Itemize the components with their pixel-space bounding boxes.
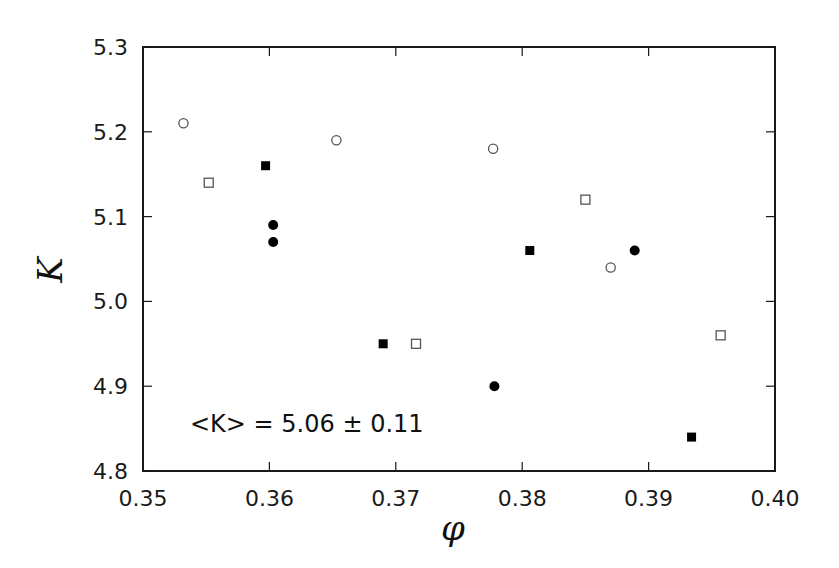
y-tick-label: 5.2 — [93, 120, 128, 145]
open-square-marker — [204, 178, 213, 187]
open-square-marker — [581, 195, 590, 204]
filled-square-marker — [261, 161, 270, 170]
filled-square-marker — [525, 246, 534, 255]
y-tick-label: 4.9 — [93, 374, 128, 399]
filled-square-marker — [687, 433, 696, 442]
filled-circle-marker — [268, 220, 278, 230]
x-tick-label: 0.36 — [245, 486, 294, 511]
open-circle-marker — [606, 263, 615, 272]
filled-circle-marker — [268, 237, 278, 247]
open-square-marker — [412, 339, 421, 348]
plot-frame — [143, 47, 775, 471]
y-tick-label: 5.1 — [93, 205, 128, 230]
y-tick-label: 5.3 — [93, 35, 128, 60]
scatter-chart: 0.350.360.370.380.390.40 4.84.95.05.15.2… — [0, 0, 839, 568]
x-axis-ticks: 0.350.360.370.380.390.40 — [119, 47, 800, 511]
open-square-marker — [716, 331, 725, 340]
x-tick-label: 0.35 — [119, 486, 168, 511]
y-tick-label: 5.0 — [93, 289, 128, 314]
x-tick-label: 0.39 — [624, 486, 673, 511]
y-axis-label: K — [30, 255, 70, 284]
open-circle-marker — [179, 119, 188, 128]
x-axis-label: φ — [441, 508, 465, 548]
x-tick-label: 0.40 — [751, 486, 800, 511]
open-circle-marker — [489, 144, 498, 153]
x-tick-label: 0.37 — [371, 486, 420, 511]
filled-circle-marker — [630, 246, 640, 256]
y-tick-label: 4.8 — [93, 459, 128, 484]
mean-k-annotation: <K> = 5.06 ± 0.11 — [190, 410, 424, 438]
filled-circle-marker — [489, 381, 499, 391]
filled-square-marker — [379, 339, 388, 348]
x-tick-label: 0.38 — [498, 486, 547, 511]
plot-border — [143, 47, 775, 471]
data-markers — [179, 119, 725, 442]
open-circle-marker — [332, 136, 341, 145]
